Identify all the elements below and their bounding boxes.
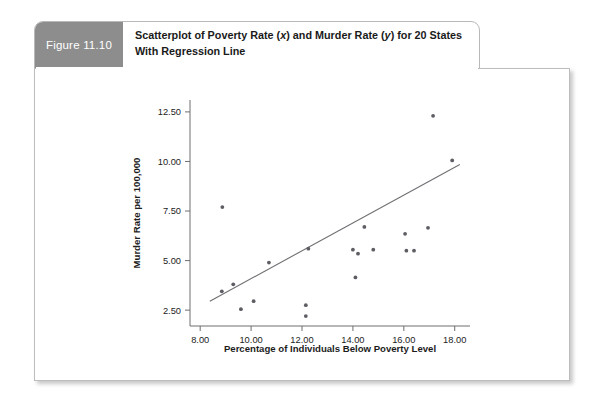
- figure-title: Scatterplot of Poverty Rate (x) and Murd…: [135, 28, 471, 59]
- figure-header-card: Figure 11.10 Scatterplot of Poverty Rate…: [34, 21, 480, 69]
- figure-body-panel: [34, 68, 570, 381]
- figure-number-tab: Figure 11.10: [35, 22, 123, 68]
- figure-number-label: Figure 11.10: [46, 39, 112, 51]
- figure-title-segment-1: Scatterplot of Poverty Rate (: [135, 29, 280, 41]
- figure-title-line-2: Regression Line: [161, 45, 245, 57]
- figure-title-segment-2: ) and Murder Rate (: [286, 29, 384, 41]
- figure-container: Figure 11.10 Scatterplot of Poverty Rate…: [0, 0, 605, 405]
- header-body-seam: [36, 67, 478, 70]
